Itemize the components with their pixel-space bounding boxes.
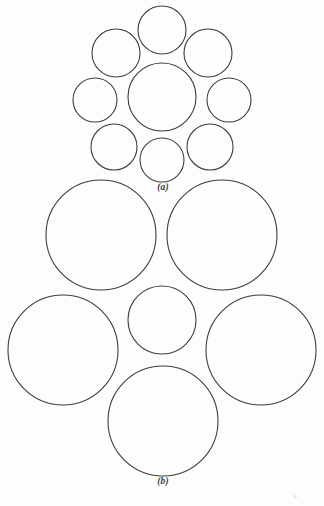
panel-a-caption: (a): [157, 183, 169, 193]
scan-artifact-speck: [47, 38, 49, 40]
circle-b-bottom: [108, 366, 218, 476]
circle-b-middle-right: [206, 295, 316, 405]
circle-a-center: [128, 63, 196, 131]
circle-a-right: [207, 78, 251, 122]
panel-a-circle-group: [73, 6, 251, 182]
circle-a-lower-left: [91, 124, 137, 170]
circle-a-left: [73, 78, 117, 122]
figure-page: (a) (b): [0, 0, 324, 506]
circle-packing-figure: [0, 0, 324, 506]
circle-b-upper-left: [46, 180, 156, 290]
panel-b-circle-group: [8, 180, 316, 476]
circle-a-upper-right: [184, 29, 232, 77]
circle-b-center: [128, 286, 196, 354]
circle-a-bottom: [140, 138, 184, 182]
circle-a-lower-right: [187, 124, 233, 170]
circle-b-upper-right: [167, 180, 277, 290]
circle-a-upper-left: [92, 29, 140, 77]
scan-artifact-speck: [293, 495, 297, 498]
panel-b-caption: (b): [157, 477, 169, 487]
circle-b-middle-left: [8, 295, 118, 405]
circle-a-top: [138, 6, 186, 54]
